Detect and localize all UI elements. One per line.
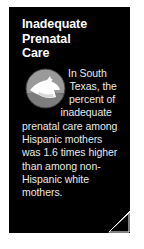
inadequate-prenatal-care-card: Inadequate Prenatal Care [9,7,130,233]
card-title: Inadequate Prenatal Care [22,17,122,61]
card-content: Inadequate Prenatal Care [9,7,130,233]
fact-card-screen: Inadequate Prenatal Care [0,0,144,249]
stork-arrow-circle-icon [25,68,66,109]
